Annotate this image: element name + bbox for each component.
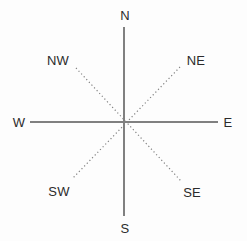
label-southwest: SW	[48, 185, 69, 198]
northeast-southwest-axis-line	[72, 67, 180, 179]
compass-rose-figure: N NW NE W E SW SE S	[0, 0, 247, 241]
label-northwest: NW	[47, 54, 69, 67]
label-west: W	[13, 116, 25, 129]
label-south: S	[121, 222, 130, 235]
label-east: E	[224, 116, 233, 129]
label-southeast: SE	[183, 186, 201, 199]
label-north: N	[120, 9, 130, 22]
compass-lines-svg	[0, 0, 247, 241]
northwest-southeast-axis-line	[76, 68, 181, 181]
label-northeast: NE	[187, 54, 205, 67]
